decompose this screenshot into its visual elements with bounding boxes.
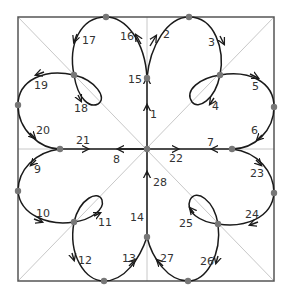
edge-label-7: 7 [207, 136, 214, 149]
node-bottom-left [101, 278, 107, 284]
edge-label-15: 15 [128, 73, 142, 86]
node-left-lower [15, 188, 21, 194]
node-center-lower [144, 234, 150, 240]
edge-label-1: 1 [150, 108, 157, 121]
arrow-24 [250, 222, 258, 225]
edge-label-9: 9 [34, 163, 41, 176]
edge-label-10: 10 [36, 207, 50, 220]
node-left-upper [15, 102, 21, 108]
edge-label-20: 20 [36, 124, 50, 137]
edge-12 [73, 222, 104, 281]
edge-label-22: 22 [169, 152, 183, 165]
node-right-lower [271, 190, 277, 196]
edge-label-2: 2 [163, 28, 170, 41]
node-mid-right [229, 146, 235, 152]
edge-label-8: 8 [113, 153, 120, 166]
edge-label-16: 16 [120, 30, 134, 43]
node-bottom-right [185, 278, 191, 284]
node-loop-tr [217, 72, 223, 78]
arrow-26 [216, 256, 218, 263]
arrow-3 [220, 36, 224, 44]
edge-label-21: 21 [76, 134, 90, 147]
edge-label-19: 19 [34, 79, 48, 92]
edge-3 [189, 17, 221, 75]
arrow-12 [72, 253, 74, 260]
edge-label-17: 17 [82, 34, 96, 47]
edge-label-28: 28 [153, 176, 167, 189]
edge-label-25: 25 [179, 217, 193, 230]
edge-25-loop [189, 195, 218, 224]
heart-flower-diagram: 1234567891011121314151617181920212223242… [0, 0, 292, 298]
edge-label-13: 13 [122, 252, 136, 265]
edge-5 [220, 74, 274, 107]
edge-label-14: 14 [130, 211, 144, 224]
edge-2 [147, 17, 189, 78]
node-mid-left [57, 146, 63, 152]
edge-label-6: 6 [251, 124, 258, 137]
node-right-upper [271, 104, 277, 110]
edge-label-12: 12 [78, 254, 92, 267]
edge-label-5: 5 [252, 80, 259, 93]
node-center-upper [144, 75, 150, 81]
node-loop-tl [71, 72, 77, 78]
edge-16 [106, 17, 147, 78]
edge-label-11: 11 [98, 216, 112, 229]
node-center [144, 146, 150, 152]
node-loop-br [215, 221, 221, 227]
node-loop-bl [71, 219, 77, 225]
edge-label-24: 24 [245, 208, 259, 221]
edge-label-18: 18 [74, 102, 88, 115]
edge-26 [188, 224, 219, 281]
edge-label-4: 4 [212, 100, 219, 113]
node-top-right [186, 14, 192, 20]
node-top-left [103, 14, 109, 20]
edge-label-23: 23 [250, 167, 264, 180]
edge-label-3: 3 [208, 36, 215, 49]
edge-label-26: 26 [200, 255, 214, 268]
edge-label-27: 27 [160, 252, 174, 265]
